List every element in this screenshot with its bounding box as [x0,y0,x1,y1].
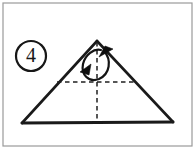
origami-step-figure: 4 [0,0,195,149]
triangle-base-edge [22,122,173,123]
step-badge-label: 4 [26,44,36,66]
diagram-canvas: 4 [0,0,195,149]
